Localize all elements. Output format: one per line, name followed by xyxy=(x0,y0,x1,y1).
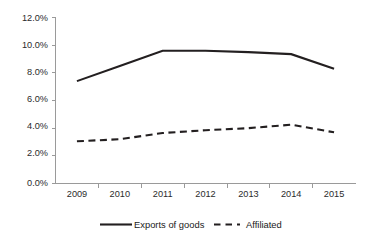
line-chart: 12.0% 10.0% 8.0% 6.0% 4.0% 2.0% 0.0% xyxy=(0,0,368,241)
y-tick-label: 4.0% xyxy=(27,121,48,131)
x-tick-label: 2010 xyxy=(110,189,130,199)
series-line-exports-of-goods xyxy=(77,51,334,81)
x-tick-label: 2014 xyxy=(281,189,301,199)
legend-label-exports-of-goods: Exports of goods xyxy=(134,219,205,230)
y-tick-label: 8.0% xyxy=(27,67,48,77)
y-tick-label: 6.0% xyxy=(27,94,48,104)
y-tick-label: 0.0% xyxy=(27,178,48,188)
y-axis xyxy=(52,18,56,184)
legend: Exports of goods Affiliated xyxy=(100,219,282,230)
y-tick-label: 12.0% xyxy=(22,13,48,23)
legend-label-affiliated: Affiliated xyxy=(246,219,282,230)
series-line-affiliated xyxy=(77,125,334,142)
y-tick-label: 2.0% xyxy=(27,148,48,158)
y-axis-tick-labels: 12.0% 10.0% 8.0% 6.0% 4.0% 2.0% 0.0% xyxy=(22,13,48,188)
x-axis-tick-labels: 2009 2010 2011 2012 2013 2014 2015 xyxy=(67,189,345,199)
y-tick-label: 10.0% xyxy=(22,40,48,50)
x-axis xyxy=(56,184,356,188)
plot-area xyxy=(77,51,334,142)
x-tick-label: 2009 xyxy=(67,189,87,199)
x-tick-label: 2013 xyxy=(238,189,258,199)
x-tick-label: 2012 xyxy=(195,189,215,199)
x-tick-label: 2011 xyxy=(153,189,173,199)
x-tick-label: 2015 xyxy=(324,189,344,199)
chart-canvas: 12.0% 10.0% 8.0% 6.0% 4.0% 2.0% 0.0% xyxy=(0,0,368,241)
